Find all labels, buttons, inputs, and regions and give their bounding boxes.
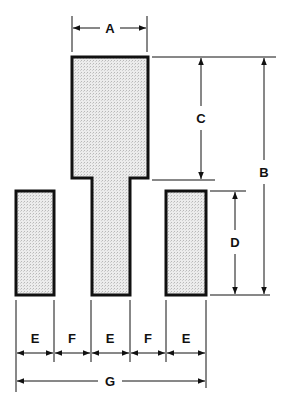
label-g: G xyxy=(105,374,115,389)
label-e2: E xyxy=(106,331,115,346)
pad-layout-diagram: A C B D E F E F E xyxy=(0,0,286,410)
label-e1: E xyxy=(31,331,40,346)
label-a: A xyxy=(105,21,115,36)
label-d: D xyxy=(230,235,239,250)
label-e3: E xyxy=(182,331,191,346)
label-c: C xyxy=(196,111,206,126)
left-pad xyxy=(16,191,54,295)
right-pad xyxy=(166,191,206,295)
label-f2: F xyxy=(144,331,152,346)
label-f1: F xyxy=(68,331,76,346)
label-b: B xyxy=(259,165,268,180)
center-component xyxy=(72,57,148,295)
